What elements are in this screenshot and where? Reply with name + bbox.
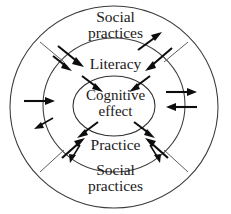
label-cognitive-effect: Cognitive effect: [0, 88, 231, 119]
label-outer-ring-top-line1: Social: [96, 8, 135, 25]
diagram-canvas: Social practices Literacy Cognitive effe…: [0, 0, 231, 214]
label-outer-ring-bottom-line1: Social: [96, 161, 135, 178]
label-outer-ring-top: Social practices: [0, 9, 231, 41]
label-cognitive-effect-line2: effect: [0, 104, 231, 120]
label-outer-ring-bottom: Social practices: [0, 162, 231, 194]
label-outer-ring-bottom-line2: practices: [0, 178, 231, 194]
label-literacy: Literacy: [0, 56, 231, 72]
arrow-left-outward-diagonal: [34, 118, 53, 129]
label-outer-ring-top-line2: practices: [0, 25, 231, 41]
label-cognitive-effect-line1: Cognitive: [86, 87, 145, 103]
label-practice: Practice: [0, 137, 231, 153]
